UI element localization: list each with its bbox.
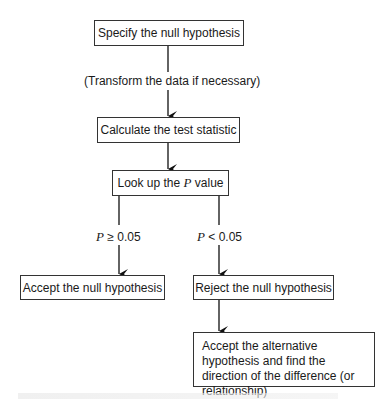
node-accept-alternative-hypothesis: Accept the alternative hypothesis and fi…: [193, 332, 375, 387]
condition-text: ≥ 0.05: [104, 230, 141, 244]
node-label: Accept the null hypothesis: [23, 281, 162, 295]
branch-label-p-ge-005: P ≥ 0.05: [96, 229, 141, 245]
condition-text: < 0.05: [205, 230, 242, 244]
node-accept-null-hypothesis: Accept the null hypothesis: [20, 275, 165, 300]
p-variable: P: [184, 175, 192, 191]
node-look-up-p-value: Look up the P value: [112, 170, 229, 196]
p-variable: P: [197, 229, 205, 244]
figure-caption-faint: [18, 393, 338, 399]
node-reject-null-hypothesis: Reject the null hypothesis: [193, 275, 334, 300]
node-label: Specify the null hypothesis: [98, 26, 240, 40]
node-label-prefix: Look up the: [117, 176, 183, 190]
node-calculate-test-statistic: Calculate the test statistic: [97, 117, 240, 143]
node-label: Accept the alternative hypothesis and fi…: [202, 339, 366, 399]
node-label: Calculate the test statistic: [100, 123, 236, 137]
p-variable: P: [96, 229, 104, 244]
node-label-suffix: value: [191, 176, 223, 190]
branch-label-p-lt-005: P < 0.05: [197, 229, 242, 245]
node-label: Reject the null hypothesis: [195, 281, 332, 295]
transform-data-label: (Transform the data if necessary): [84, 74, 260, 88]
node-specify-null-hypothesis: Specify the null hypothesis: [94, 20, 244, 46]
